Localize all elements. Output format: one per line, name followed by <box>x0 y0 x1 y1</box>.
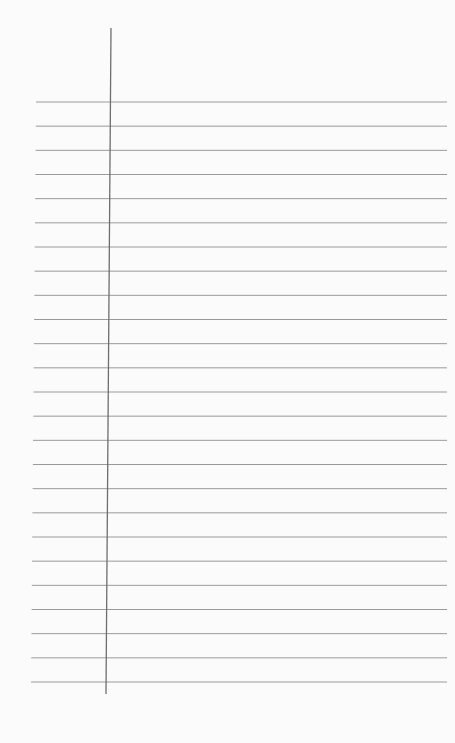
margin-line <box>106 28 111 694</box>
lined-paper <box>0 0 455 743</box>
